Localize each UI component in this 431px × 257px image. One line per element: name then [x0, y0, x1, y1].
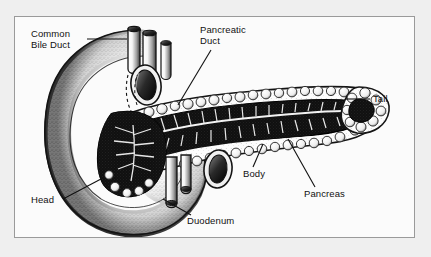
label-body: Body [243, 169, 265, 180]
label-head: Head [31, 195, 54, 206]
accessory-duct-tube [161, 41, 171, 80]
label-pancreas: Pancreas [304, 189, 345, 200]
anatomy-illustration [15, 17, 414, 237]
label-tail: Tail [373, 94, 388, 105]
figure-frame: Common Bile Duct Pancreatic Duct Tail Bo… [14, 16, 415, 238]
label-duodenum: Duodenum [187, 216, 234, 227]
lower-duct-tube-right [181, 155, 191, 194]
label-common-bile-duct: Common Bile Duct [31, 29, 70, 50]
label-pancreatic-duct: Pancreatic Duct [200, 25, 246, 46]
lower-duct-tube-left [166, 157, 177, 208]
